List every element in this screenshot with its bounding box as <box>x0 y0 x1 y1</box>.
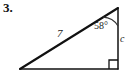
triangle-drawing <box>0 0 130 79</box>
hypotenuse-length-label: 7 <box>57 27 63 39</box>
right-angle-square-icon <box>109 60 118 69</box>
geometry-figure: 3. 7 58° c <box>0 0 130 79</box>
unknown-side-label: c <box>120 33 124 44</box>
angle-measure-label: 58° <box>94 20 108 31</box>
